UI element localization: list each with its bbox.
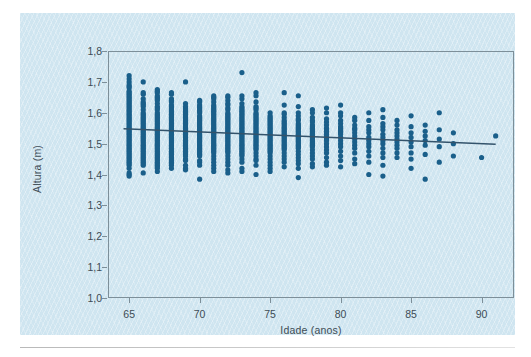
x-tick-mark [200, 298, 201, 303]
x-tick-mark [482, 298, 483, 303]
chart-panel: Altura (m) Idade (anos) 1,01,11,21,31,41… [20, 13, 515, 335]
y-tick-mark [102, 82, 107, 83]
x-tick-label: 90 [476, 309, 488, 320]
x-axis-tick-labels: 657075808590 [108, 298, 514, 324]
x-tick-mark [129, 298, 130, 303]
x-tick-label: 80 [335, 309, 347, 320]
x-tick-mark [411, 298, 412, 303]
x-tick-mark [341, 298, 342, 303]
y-tick-label: 1,8 [72, 46, 102, 57]
x-tick-label: 75 [264, 309, 276, 320]
x-tick-mark [270, 298, 271, 303]
y-tick-label: 1,6 [72, 108, 102, 119]
y-tick-mark [102, 267, 107, 268]
y-axis-tick-labels: 1,01,11,21,31,41,51,61,71,8 [70, 51, 102, 298]
y-tick-mark [102, 175, 107, 176]
y-tick-label: 1,2 [72, 231, 102, 242]
y-tick-label: 1,5 [72, 139, 102, 150]
y-tick-label: 1,7 [72, 77, 102, 88]
y-tick-label: 1,3 [72, 200, 102, 211]
x-axis-title: Idade (anos) [108, 324, 514, 336]
figure-footer-rule [20, 347, 515, 348]
y-tick-mark [102, 113, 107, 114]
figure-root: Altura (m) Idade (anos) 1,01,11,21,31,41… [0, 0, 531, 357]
y-tick-mark [102, 144, 107, 145]
x-tick-label: 65 [123, 309, 135, 320]
y-tick-label: 1,1 [72, 262, 102, 273]
y-tick-label: 1,4 [72, 170, 102, 181]
y-tick-mark [102, 236, 107, 237]
y-tick-label: 1,0 [72, 293, 102, 304]
plot-frame-border [108, 51, 514, 298]
y-axis-title: Altura (m) [31, 124, 43, 214]
x-tick-label: 85 [405, 309, 417, 320]
y-tick-mark [102, 205, 107, 206]
y-tick-mark [102, 51, 107, 52]
y-tick-mark [102, 298, 107, 299]
x-tick-label: 70 [194, 309, 206, 320]
